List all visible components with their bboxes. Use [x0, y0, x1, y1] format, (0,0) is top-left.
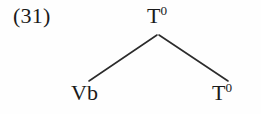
- tree-node-right-daughter-superscript: 0: [225, 80, 232, 95]
- left-branch-line: [89, 35, 157, 81]
- tree-node-root: T0: [147, 5, 167, 27]
- tree-node-left-daughter: Vb: [71, 82, 98, 104]
- syntax-tree-figure: (31) T0 Vb T0: [0, 0, 261, 114]
- right-branch-line: [159, 35, 228, 81]
- tree-node-left-daughter-category: Vb: [71, 80, 98, 105]
- tree-node-right-daughter: T0: [212, 82, 232, 104]
- tree-node-right-daughter-category: T: [212, 80, 225, 105]
- tree-node-root-category: T: [147, 3, 160, 28]
- tree-node-root-superscript: 0: [160, 3, 167, 18]
